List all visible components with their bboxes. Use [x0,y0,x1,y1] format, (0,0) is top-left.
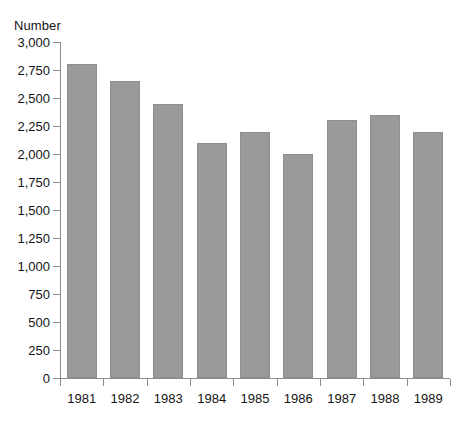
y-axis-label: 2,000 [0,148,50,161]
x-axis-label: 1984 [190,391,233,406]
bar [283,154,313,378]
y-axis-label: 0 [0,372,50,385]
x-axis-label: 1982 [103,391,146,406]
x-axis-label: 1986 [277,391,320,406]
y-axis-tick [53,70,60,71]
x-axis-tick [363,379,364,386]
y-axis-tick [53,322,60,323]
x-axis-tick [320,379,321,386]
y-axis-tick [53,238,60,239]
bar-chart: Number 02505007501,0001,2501,5001,7502,0… [0,0,458,431]
y-axis-label: 750 [0,288,50,301]
bar [67,64,97,378]
x-axis-tick [450,379,451,386]
y-axis-label: 2,500 [0,92,50,105]
x-axis-tick [190,379,191,386]
y-axis-label: 2,750 [0,64,50,77]
x-axis-tick [277,379,278,386]
y-axis-label: 3,000 [0,36,50,49]
x-axis-tick [60,379,61,386]
bar [327,120,357,378]
y-axis-line [60,42,61,379]
y-axis-tick [53,126,60,127]
x-axis-tick [407,379,408,386]
bar [413,132,443,378]
y-axis-label: 1,500 [0,204,50,217]
y-axis-tick [53,294,60,295]
y-axis-label: 1,750 [0,176,50,189]
x-axis-label: 1985 [233,391,276,406]
bar [197,143,227,378]
y-axis-label: 1,250 [0,232,50,245]
y-axis-label: 250 [0,344,50,357]
y-axis-label: 500 [0,316,50,329]
x-axis-label: 1989 [407,391,450,406]
y-axis-title: Number [14,18,61,33]
x-axis-label: 1988 [363,391,406,406]
y-axis-tick [53,42,60,43]
x-axis-line [60,378,450,379]
y-axis-label: 2,250 [0,120,50,133]
y-axis-label: 1,000 [0,260,50,273]
bar [240,132,270,378]
x-axis-label: 1981 [60,391,103,406]
y-axis-tick [53,98,60,99]
bar [153,104,183,378]
y-axis-tick [53,210,60,211]
y-axis-tick [53,378,60,379]
bar [370,115,400,378]
x-axis-tick [147,379,148,386]
y-axis-tick [53,154,60,155]
y-axis-tick [53,266,60,267]
bar [110,81,140,378]
x-axis-tick [233,379,234,386]
x-axis-label: 1987 [320,391,363,406]
y-axis-tick [53,182,60,183]
y-axis-tick [53,350,60,351]
x-axis-label: 1983 [147,391,190,406]
x-axis-tick [103,379,104,386]
